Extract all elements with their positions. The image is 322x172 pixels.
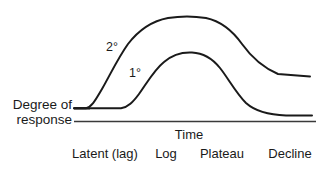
phase-label-plateau: Plateau — [190, 147, 254, 162]
curve-label-primary-response: 1° — [129, 66, 141, 80]
phase-label-log: Log — [145, 147, 187, 162]
x-axis-label: Time — [154, 128, 224, 143]
y-axis-label-line-1: Degree of — [13, 97, 72, 112]
growth-curve-figure: Degree of response Time Latent (lag) Log… — [0, 0, 322, 172]
curve-primary-response — [74, 52, 312, 115]
y-axis-label: Degree of response — [6, 97, 72, 127]
phase-label-decline: Decline — [260, 147, 320, 162]
curve-label-secondary-response: 2° — [106, 40, 118, 54]
phase-label-latent: Latent (lag) — [57, 147, 153, 162]
curve-secondary-response — [74, 17, 310, 109]
y-axis-label-line-2: response — [6, 112, 72, 127]
